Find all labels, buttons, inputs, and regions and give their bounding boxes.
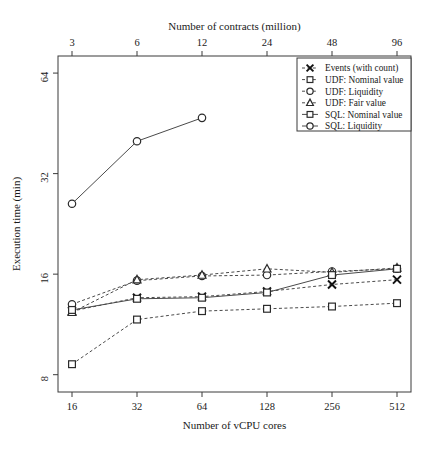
series-line-udf-liquidity — [72, 269, 397, 304]
marker-sql-nominal-value — [329, 272, 336, 279]
marker-sql-nominal-value — [394, 265, 401, 272]
x-tick-label: 16 — [67, 401, 78, 412]
series-line-sql-liquidity — [72, 118, 202, 204]
secondary-x-tick-label: 48 — [327, 37, 338, 48]
x-tick-label: 128 — [259, 401, 275, 412]
marker-sql-nominal-value — [264, 289, 271, 296]
x-tick-label: 512 — [389, 401, 405, 412]
legend-marker-4 — [307, 112, 313, 118]
marker-udf-nominal-value — [329, 303, 336, 310]
y-tick-label: 16 — [39, 273, 50, 284]
marker-sql-nominal-value — [134, 295, 141, 302]
x-tick-label: 64 — [197, 401, 208, 412]
y-tick-label: 32 — [39, 172, 50, 183]
secondary-x-tick-label: 12 — [197, 37, 208, 48]
x-tick-label: 256 — [324, 401, 340, 412]
secondary-x-tick-label: 96 — [392, 37, 403, 48]
marker-sql-liquidity — [68, 200, 75, 207]
marker-udf-nominal-value — [69, 361, 76, 368]
marker-sql-nominal-value — [199, 294, 206, 301]
legend-label-1: UDF: Nominal value — [325, 75, 404, 85]
legend-marker-1 — [307, 77, 313, 83]
y-tick-label: 64 — [39, 71, 50, 82]
marker-udf-nominal-value — [264, 305, 271, 312]
marker-udf-nominal-value — [199, 308, 206, 315]
x-axis-title: Number of vCPU cores — [183, 419, 287, 431]
marker-udf-nominal-value — [394, 300, 401, 307]
x-tick-label: 32 — [132, 401, 143, 412]
marker-udf-fair-value — [263, 265, 271, 273]
secondary-x-tick-label: 24 — [262, 37, 273, 48]
marker-sql-nominal-value — [69, 307, 76, 314]
secondary-x-axis-title: Number of contracts (million) — [168, 20, 301, 33]
legend-marker-2 — [307, 88, 313, 94]
legend-label-5: SQL: Liquidity — [325, 121, 382, 131]
execution-time-line-chart: 8163264Execution time (min)1632641282565… — [0, 0, 431, 450]
chart-figure: 8163264Execution time (min)1632641282565… — [0, 0, 431, 450]
secondary-x-tick-label: 3 — [69, 37, 74, 48]
series-line-sql-nominal-value — [72, 269, 397, 310]
marker-sql-liquidity — [133, 138, 140, 145]
marker-udf-nominal-value — [134, 316, 141, 323]
legend-label-0: Events (with count) — [325, 63, 398, 74]
y-tick-label: 8 — [39, 376, 50, 381]
secondary-x-tick-label: 6 — [134, 37, 139, 48]
series-line-udf-nominal-value — [72, 303, 397, 364]
legend-label-4: SQL: Nominal value — [325, 110, 402, 120]
legend-label-3: UDF: Fair value — [325, 98, 386, 108]
marker-sql-liquidity — [198, 114, 205, 121]
y-axis-title: Execution time (min) — [10, 177, 23, 271]
legend-label-2: UDF: Liquidity — [325, 87, 383, 97]
legend-marker-5 — [307, 123, 313, 129]
series-line-udf-fair-value — [72, 268, 397, 312]
